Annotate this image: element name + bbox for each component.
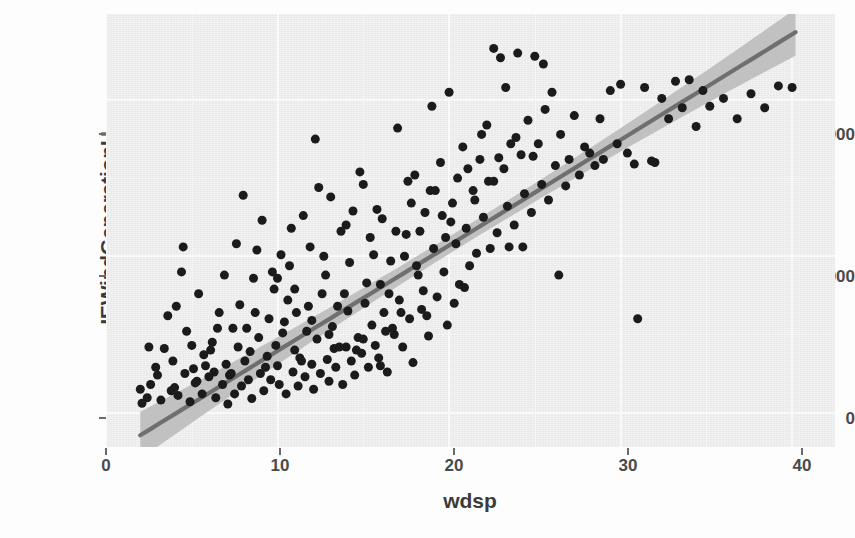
x-tick-mark-30 [627,448,629,455]
data-point [671,77,680,86]
data-point [760,103,769,112]
data-point [273,361,282,370]
data-point [294,382,303,391]
data-point [151,363,160,372]
data-point [565,155,574,164]
data-point [270,285,279,294]
data-point [469,186,478,195]
data-point [194,289,203,298]
data-point [376,361,385,370]
data-point [289,368,298,377]
y-tick-mark-2000 [99,133,106,135]
data-point [503,202,512,211]
data-point [263,352,272,361]
data-point [362,278,371,287]
data-point [373,205,382,214]
data-point [575,171,584,180]
data-point [544,196,553,205]
data-point [400,252,409,261]
data-point [678,103,687,112]
data-point [539,60,548,69]
data-point [472,249,481,258]
data-point [475,155,484,164]
data-point [287,224,296,233]
data-point [470,196,479,205]
data-point [189,364,198,373]
data-point [374,353,383,362]
data-point [234,343,243,352]
data-point [153,371,162,380]
data-point [144,343,153,352]
data-point [359,180,368,189]
data-point [347,357,356,366]
data-point [512,133,521,142]
data-point [319,252,328,261]
data-point [460,283,469,292]
x-tick-mark-10 [279,448,281,455]
data-point [278,328,287,337]
data-point [361,299,370,308]
data-point [304,302,313,311]
data-point [252,246,261,255]
data-point [438,211,447,220]
data-point [201,361,210,370]
x-tick-mark-20 [453,448,455,455]
data-point [337,227,346,236]
data-point [429,244,438,253]
data-point [747,89,756,98]
data-point [427,102,436,111]
data-point [316,369,325,378]
data-point [527,208,536,217]
data-point [143,393,152,402]
data-point [367,321,376,330]
data-point [265,314,274,323]
data-point [431,186,440,195]
x-tick-label-10: 10 [250,456,310,476]
data-point [630,160,639,169]
data-point [186,397,195,406]
data-point [228,324,237,333]
data-point [450,299,459,308]
data-point [225,371,234,380]
data-point [168,357,177,366]
data-point [524,116,533,125]
data-point [541,105,550,114]
data-point [239,191,248,200]
data-point [242,324,251,333]
data-point [330,344,339,353]
data-point [383,368,392,377]
data-point [283,296,292,305]
data-point [177,267,186,276]
data-point [397,308,406,317]
data-point [210,368,219,377]
data-point [698,86,707,95]
data-point [518,242,527,251]
data-point [172,302,181,311]
data-point [513,49,522,58]
data-point [493,228,502,237]
x-tick-label-20: 20 [424,456,484,476]
x-tick-label-30: 30 [598,456,658,476]
data-point [463,164,472,173]
data-point [412,261,421,270]
data-point [277,250,286,259]
data-point [371,341,380,350]
data-point [301,372,310,381]
data-point [146,380,155,389]
data-point [664,114,673,123]
data-point [349,207,358,216]
data-point [230,389,239,398]
data-point [616,80,625,89]
data-point [198,389,207,398]
data-point [345,258,354,267]
data-point [261,363,270,372]
x-tick-mark-0 [105,448,107,455]
data-point [489,44,498,53]
data-point [537,180,546,189]
data-point [246,347,255,356]
data-point [340,289,349,298]
data-point [342,343,351,352]
data-point [247,394,256,403]
data-point [445,88,454,97]
data-point [462,224,471,233]
